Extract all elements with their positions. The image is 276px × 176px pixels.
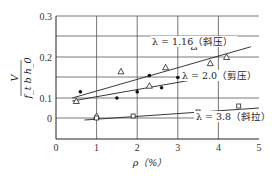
svg-text:V: V (9, 73, 20, 81)
svg-text:f_t b h_0: f_t b h_0 (22, 57, 34, 99)
x-tick-label: 1 (94, 142, 99, 153)
x-tick-label: 2 (135, 142, 140, 153)
y-tick-label: 0.2 (40, 52, 53, 63)
y-tick-label: 0 (47, 113, 52, 124)
y-tick-label: 0.1 (40, 93, 53, 104)
triangle-marker (118, 68, 124, 74)
dot-marker (115, 96, 119, 100)
dot-marker (176, 76, 180, 80)
dot-marker (160, 86, 164, 90)
series-annotation: λ = 1.16（斜压） (152, 36, 233, 47)
square-marker (237, 104, 241, 108)
x-tick-label: 3 (175, 142, 180, 153)
square-marker (131, 114, 135, 118)
square-marker (95, 116, 99, 120)
fit-lines (72, 47, 259, 120)
triangle-marker (163, 64, 169, 70)
dot-marker (148, 74, 152, 78)
series-annotation: λ = 3.8（斜拉） (196, 111, 271, 122)
x-tick-label: 4 (216, 142, 221, 153)
dot-marker (79, 90, 83, 94)
x-axis-label: ρ（%） (132, 157, 168, 168)
triangle-marker (207, 60, 213, 66)
y-tick-label: 0.3 (40, 11, 53, 22)
dot-marker (135, 90, 139, 94)
chart: 0123450.30.20.10ρ（%）Vf_t b h_0λ = 1.16（斜… (0, 0, 276, 176)
x-tick-label: 0 (54, 142, 59, 153)
labels: 0123450.30.20.10ρ（%）Vf_t b h_0λ = 1.16（斜… (9, 11, 274, 169)
y-axis-label: Vf_t b h_0 (9, 57, 34, 99)
triangle-marker (146, 83, 152, 89)
x-tick-label: 5 (257, 142, 262, 153)
data-points (73, 44, 240, 120)
series-annotation: λ = 2.0（剪压） (182, 70, 257, 81)
